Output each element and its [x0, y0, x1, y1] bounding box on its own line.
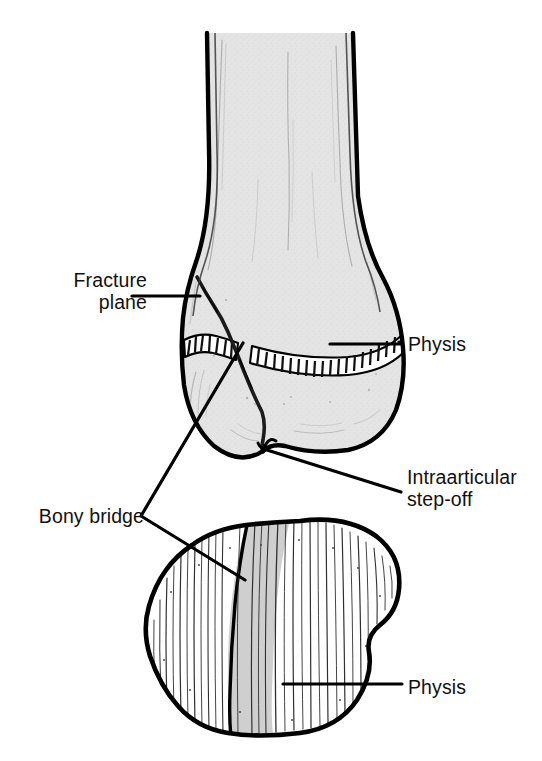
axial-view-distal-tibia: [146, 519, 400, 738]
label-physis-top: Physis: [408, 333, 466, 355]
label-bony-bridge: Bony bridge: [39, 505, 144, 527]
label-intraarticular-step-off: Intraarticular step-off: [407, 466, 517, 510]
label-fracture-plane: Fracture plane: [74, 269, 147, 313]
bone-illustration: [0, 0, 542, 761]
leader-intraarticular-step-off: [267, 450, 401, 492]
medical-figure: Fracture plane Physis Intraarticular ste…: [0, 0, 542, 761]
ap-view-distal-tibia: [182, 33, 404, 457]
label-physis-bottom: Physis: [408, 676, 466, 698]
